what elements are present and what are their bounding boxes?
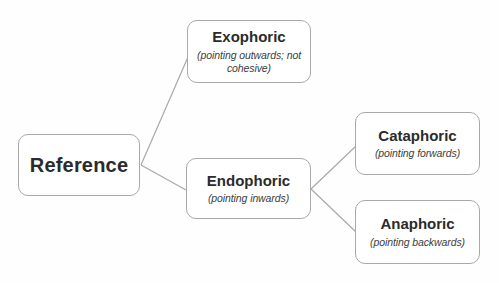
node-exophoric-title: Exophoric: [212, 28, 285, 45]
node-endophoric: Endophoric (pointing inwards): [186, 158, 311, 219]
node-anaphoric-title: Anaphoric: [380, 215, 454, 232]
diagram-canvas: Reference Exophoric (pointing outwards; …: [0, 0, 499, 283]
connector-endophoric-cataphoric: [311, 146, 356, 189]
node-cataphoric: Cataphoric (pointing forwards): [355, 112, 480, 175]
connector-reference-exophoric: [141, 57, 188, 165]
node-reference: Reference: [18, 134, 140, 196]
node-exophoric-subtitle: (pointing outwards; not cohesive): [190, 49, 308, 75]
node-cataphoric-title: Cataphoric: [378, 127, 456, 144]
node-endophoric-title: Endophoric: [207, 172, 290, 189]
node-cataphoric-subtitle: (pointing forwards): [375, 147, 460, 160]
node-anaphoric: Anaphoric (pointing backwards): [355, 200, 480, 264]
node-anaphoric-subtitle: (pointing backwards): [370, 236, 465, 249]
connector-endophoric-anaphoric: [311, 189, 356, 232]
node-endophoric-subtitle: (pointing inwards): [208, 192, 289, 205]
node-exophoric: Exophoric (pointing outwards; not cohesi…: [187, 20, 311, 83]
node-reference-label: Reference: [30, 154, 129, 177]
connector-reference-endophoric: [141, 165, 186, 190]
